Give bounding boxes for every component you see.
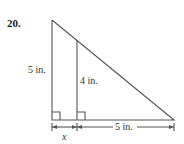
inner-height-label: 4 in. xyxy=(80,76,98,86)
x-label: x xyxy=(62,132,66,142)
outer-height-label: 5 in. xyxy=(28,65,46,75)
base-right-label: 5 in. xyxy=(115,122,133,132)
right-angle-marker-inner xyxy=(77,112,85,120)
outer-triangle xyxy=(52,20,174,120)
right-angle-marker-left xyxy=(52,112,60,120)
